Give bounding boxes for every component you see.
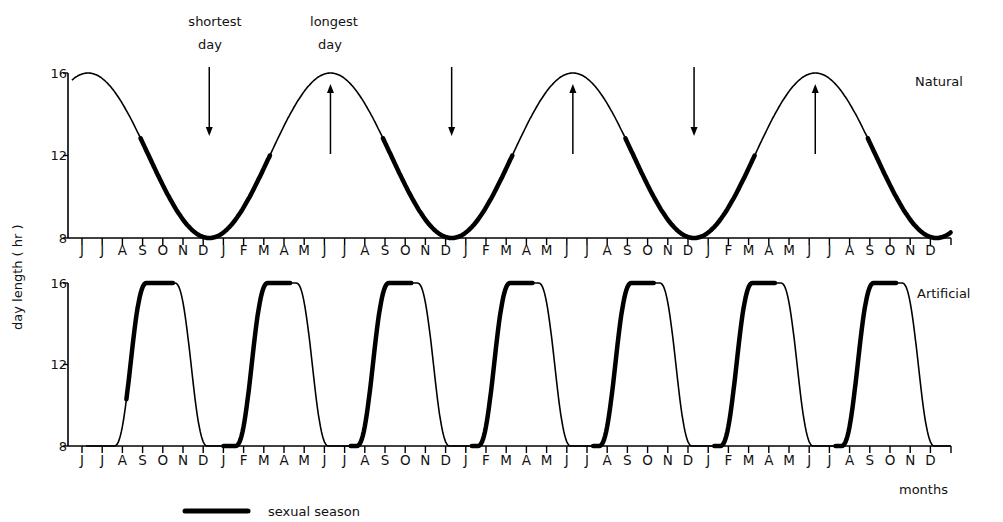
month-label: A xyxy=(279,452,289,468)
month-label: J xyxy=(826,452,831,468)
month-label: D xyxy=(198,242,208,258)
month-label: F xyxy=(482,242,490,258)
month-label: N xyxy=(663,452,673,468)
sexual-season-segment xyxy=(223,283,290,446)
arrow-up-icon xyxy=(812,84,819,93)
month-label: O xyxy=(400,452,411,468)
month-label: J xyxy=(564,452,569,468)
month-label: F xyxy=(482,452,490,468)
month-label: D xyxy=(683,452,693,468)
month-label: J xyxy=(220,242,225,258)
artificial-daylength-curve xyxy=(86,283,951,446)
longest-day-label-2: day xyxy=(318,37,342,52)
arrow-down-icon xyxy=(206,127,213,136)
month-label: D xyxy=(925,452,935,468)
month-label: F xyxy=(725,242,733,258)
photoperiod-chart: shortest day longest day Natural Artific… xyxy=(0,0,1003,522)
month-label: F xyxy=(725,452,733,468)
month-label: O xyxy=(642,242,653,258)
month-label: D xyxy=(198,452,208,468)
month-label: M xyxy=(258,242,270,258)
month-label: M xyxy=(500,452,512,468)
month-label: N xyxy=(663,242,673,258)
month-label: J xyxy=(342,452,347,468)
month-label: A xyxy=(522,452,532,468)
sexual-season-segment xyxy=(383,138,512,238)
month-label: O xyxy=(885,242,896,258)
month-label: M xyxy=(783,452,795,468)
month-label: A xyxy=(764,242,774,258)
legend-label: sexual season xyxy=(268,504,360,519)
month-label: O xyxy=(157,452,168,468)
panel-label-artificial: Artificial xyxy=(917,286,970,301)
month-label: A xyxy=(118,452,128,468)
month-label: S xyxy=(138,452,147,468)
sexual-season-segment xyxy=(351,283,412,446)
arrow-up-icon xyxy=(327,84,334,93)
month-label: J xyxy=(584,452,589,468)
month-label: J xyxy=(564,242,569,258)
month-label: S xyxy=(381,242,390,258)
month-label: N xyxy=(178,242,188,258)
shortest-day-label-2: day xyxy=(198,37,222,52)
sexual-season-segment xyxy=(625,138,754,238)
sexual-season-segment xyxy=(593,283,654,446)
month-label: F xyxy=(240,242,248,258)
y-axis-title: day length ( hr ) xyxy=(10,224,25,330)
sexual-season-segment xyxy=(472,283,533,446)
month-label: J xyxy=(321,452,326,468)
month-label: A xyxy=(845,452,855,468)
month-label: M xyxy=(783,242,795,258)
month-label: A xyxy=(764,452,774,468)
month-label: N xyxy=(178,452,188,468)
arrow-down-icon xyxy=(448,127,455,136)
month-label: O xyxy=(642,452,653,468)
month-label: J xyxy=(463,242,468,258)
month-label: O xyxy=(885,452,896,468)
month-label: M xyxy=(743,452,755,468)
longest-day-label: longest xyxy=(310,14,358,29)
month-label: D xyxy=(925,242,935,258)
month-label: M xyxy=(541,452,553,468)
month-label: M xyxy=(743,242,755,258)
month-label: D xyxy=(683,242,693,258)
month-label: N xyxy=(905,452,915,468)
month-label: M xyxy=(298,452,310,468)
month-label: J xyxy=(79,452,84,468)
month-label: J xyxy=(584,242,589,258)
month-label: M xyxy=(258,452,270,468)
month-label: J xyxy=(220,452,225,468)
arrow-up-icon xyxy=(569,84,576,93)
month-label: A xyxy=(360,242,370,258)
month-label: S xyxy=(866,242,875,258)
month-label: S xyxy=(866,452,875,468)
month-label: M xyxy=(500,242,512,258)
month-label: S xyxy=(138,242,147,258)
month-label: J xyxy=(321,242,326,258)
month-label: O xyxy=(400,242,411,258)
shortest-day-label: shortest xyxy=(188,14,241,29)
month-label: J xyxy=(79,242,84,258)
month-label: A xyxy=(603,242,613,258)
month-label: N xyxy=(420,242,430,258)
month-label: J xyxy=(463,452,468,468)
month-label: D xyxy=(440,452,450,468)
month-label: N xyxy=(420,452,430,468)
month-label: A xyxy=(603,452,613,468)
month-label: J xyxy=(826,242,831,258)
month-label: A xyxy=(845,242,855,258)
sexual-season-segment xyxy=(714,283,775,446)
month-label: F xyxy=(240,452,248,468)
month-label: J xyxy=(806,452,811,468)
month-label: M xyxy=(541,242,553,258)
x-axis-title: months xyxy=(899,482,948,497)
month-label: N xyxy=(905,242,915,258)
plot-area: JJASONDJFMAMJJASONDJFMAMJJASONDJFMAMJJAS… xyxy=(63,67,951,468)
month-label: A xyxy=(360,452,370,468)
sexual-season-segment xyxy=(836,283,897,446)
month-label: J xyxy=(806,242,811,258)
month-label: S xyxy=(381,452,390,468)
month-label: S xyxy=(623,242,632,258)
sexual-season-segment xyxy=(868,138,951,238)
sexual-season-segment xyxy=(126,283,172,399)
